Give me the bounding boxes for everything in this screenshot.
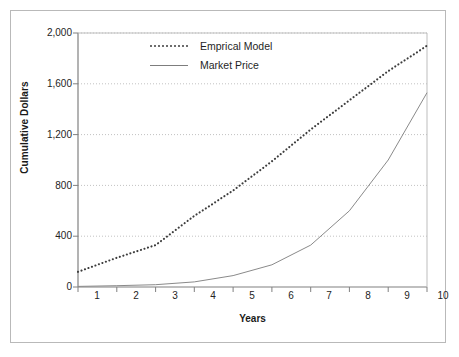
dotted-line-swatch-icon	[148, 41, 190, 51]
legend-item-market-price: Market Price	[148, 55, 328, 74]
x-tick-label-3: 3	[160, 291, 190, 301]
y-tick-label-1600: 1,600	[28, 79, 72, 89]
legend-label-emprical-model: Emprical Model	[200, 40, 272, 52]
x-tick-label-10: 10	[428, 291, 458, 301]
x-tick-label-6: 6	[276, 291, 306, 301]
y-tick-label-400: 400	[28, 231, 72, 241]
x-axis-title: Years	[78, 313, 427, 324]
legend-item-emprical-model: Emprical Model	[148, 36, 328, 55]
x-tick-label-2: 2	[121, 291, 151, 301]
chart-figure: 2,000 1,600 1,200 800 400 0 1 2 3 4 5 6 …	[0, 0, 459, 357]
x-tick-label-8: 8	[353, 291, 383, 301]
legend-label-market-price: Market Price	[200, 59, 259, 71]
chart-legend: Emprical Model Market Price	[148, 36, 328, 74]
x-tick-label-7: 7	[314, 291, 344, 301]
y-tick-label-0: 0	[28, 282, 72, 292]
y-axis-title: Cumulative Dollars	[19, 68, 30, 188]
x-tick-label-5: 5	[237, 291, 267, 301]
y-tick-label-800: 800	[28, 181, 72, 191]
y-tick-label-1200: 1,200	[28, 130, 72, 140]
y-tick-label-group: 2,000 1,600 1,200 800 400 0	[26, 0, 72, 357]
y-tick-label-2000: 2,000	[28, 28, 72, 38]
x-tick-label-9: 9	[392, 291, 422, 301]
solid-line-swatch-icon	[148, 60, 190, 70]
x-tick-label-1: 1	[82, 291, 112, 301]
x-tick-label-4: 4	[198, 291, 228, 301]
